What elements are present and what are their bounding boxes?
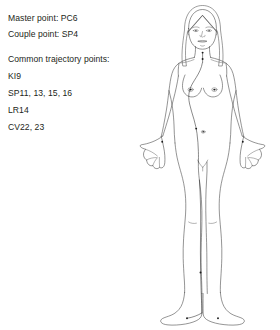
body-figure-svg <box>130 0 280 330</box>
master-point-line: Master point: PC6 <box>8 14 138 23</box>
neck-right <box>209 47 210 58</box>
hip-right-outline <box>219 143 230 293</box>
finger-line-3-left <box>153 158 158 166</box>
trajectory-line-main <box>189 63 203 162</box>
acupoint-cv22-notch <box>202 58 204 60</box>
trajectory-point-cv: CV22, 23 <box>8 123 138 132</box>
acupuncture-point-diagram: Master point: PC6 Couple point: SP4 Comm… <box>0 0 280 330</box>
common-trajectory-heading: Common trajectory points: <box>8 55 138 64</box>
acupoint-cv23-throat <box>202 52 204 54</box>
inner-thigh-left <box>198 162 202 294</box>
acupoint-lr14-right <box>214 89 216 91</box>
acupoint-sp4-foot-right <box>217 317 219 319</box>
inner-arm-right <box>227 76 243 136</box>
nostril-left <box>200 35 201 37</box>
breast-left <box>182 75 201 97</box>
finger-line-1-left <box>146 149 158 156</box>
chin-crease <box>201 46 205 47</box>
acupoint-pc6-wrist-left <box>161 141 163 143</box>
finger-line-2-left <box>147 158 157 160</box>
inner-arm-left <box>163 76 179 136</box>
finger-line-2-right <box>248 158 258 160</box>
acupoint-sp15-abdomen <box>202 131 204 133</box>
knee-left <box>189 222 197 223</box>
finger-line-1-right <box>248 149 260 156</box>
acupoint-sp4-foot-left <box>186 317 188 319</box>
nostril-right <box>204 35 205 37</box>
armpit-left <box>178 63 179 76</box>
armpit-right <box>226 63 227 76</box>
knee-right <box>209 222 217 223</box>
foot-left <box>161 293 202 326</box>
legend-panel: Master point: PC6 Couple point: SP4 Comm… <box>8 14 138 132</box>
acupoint-lr14-left <box>190 89 192 91</box>
acupoint-sp16-abdomen-left <box>195 128 197 130</box>
trajectory-point-lr14: LR14 <box>8 106 138 115</box>
nose <box>201 32 203 38</box>
foot-right <box>203 293 244 326</box>
acupoint-ki9-lower-leg <box>200 272 202 274</box>
couple-point-line: Couple point: SP4 <box>8 30 138 39</box>
body-figure <box>130 0 280 330</box>
pupil-right <box>208 30 209 31</box>
waist-right <box>230 91 236 144</box>
trajectory-line-foot <box>187 313 201 318</box>
inner-thigh-right <box>206 162 208 294</box>
pupil-left <box>195 30 196 31</box>
eyebrow-right <box>206 27 213 28</box>
waist-left <box>169 91 175 144</box>
acupoint-pc6-wrist-right <box>242 141 244 143</box>
neck-left <box>194 47 195 58</box>
eyebrow-left <box>193 27 200 28</box>
breast-right <box>203 75 222 97</box>
trajectory-point-sp: SP11, 13, 15, 16 <box>8 89 138 98</box>
finger-line-3-right <box>248 158 253 166</box>
trajectory-point-ki9: KI9 <box>8 72 138 81</box>
hip-left-outline <box>175 143 186 293</box>
